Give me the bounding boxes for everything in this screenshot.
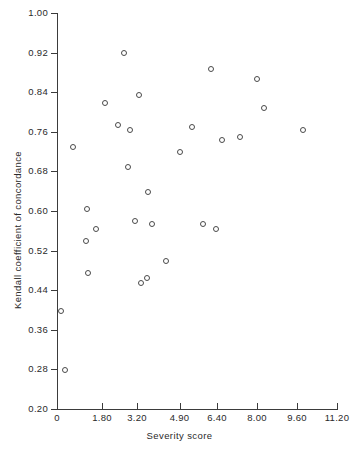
y-tick-label: 0.92 xyxy=(28,48,48,58)
x-tick xyxy=(102,403,103,410)
x-tick-label: 6.40 xyxy=(207,412,227,423)
x-tick-label: 11.20 xyxy=(325,412,350,423)
data-point xyxy=(115,122,121,128)
plot-data-area xyxy=(0,0,359,453)
y-tick-label: 0.20 xyxy=(28,404,48,414)
y-tick xyxy=(51,330,58,331)
data-point xyxy=(254,76,260,82)
data-point xyxy=(177,149,183,155)
x-tick xyxy=(137,403,138,410)
x-axis-title: Severity score xyxy=(0,430,359,441)
y-tick xyxy=(51,369,58,370)
x-tick-label: 1.80 xyxy=(92,412,112,423)
data-point xyxy=(163,258,169,264)
y-tick xyxy=(51,409,58,410)
y-tick xyxy=(51,251,58,252)
x-tick xyxy=(180,403,181,410)
x-axis-line xyxy=(57,409,338,410)
x-tick-label: 4.90 xyxy=(170,412,190,423)
data-point xyxy=(213,226,219,232)
y-tick-label: 0.84 xyxy=(28,87,48,97)
data-point xyxy=(85,270,91,276)
y-tick-label: 0.60 xyxy=(28,206,48,216)
data-point xyxy=(102,100,108,106)
data-point xyxy=(200,221,206,227)
x-tick-label: 0 xyxy=(54,412,60,423)
data-point xyxy=(84,206,90,212)
y-axis-title: Kendall coefficient of concordance xyxy=(12,130,23,330)
x-tick-label: 8.00 xyxy=(247,412,267,423)
data-point xyxy=(62,367,68,373)
data-point xyxy=(125,164,131,170)
x-tick xyxy=(257,403,258,410)
y-tick-label: 0.76 xyxy=(28,127,48,137)
data-point xyxy=(121,50,127,56)
y-tick xyxy=(51,132,58,133)
data-point xyxy=(127,127,133,133)
y-tick-label: 0.68 xyxy=(28,166,48,176)
y-tick xyxy=(51,53,58,54)
data-point xyxy=(58,308,64,314)
y-tick-label: 0.36 xyxy=(28,325,48,335)
x-tick xyxy=(297,403,298,410)
scatter-plot-figure: 0.200.280.360.440.520.600.680.760.840.92… xyxy=(0,0,359,453)
x-tick xyxy=(217,403,218,410)
x-tick-label: 9.60 xyxy=(287,412,307,423)
data-point xyxy=(70,144,76,150)
y-tick-label: 0.52 xyxy=(28,246,48,256)
data-point xyxy=(83,238,89,244)
data-point xyxy=(300,127,306,133)
y-tick-label: 0.44 xyxy=(28,285,48,295)
y-tick-label: 0.28 xyxy=(28,364,48,374)
y-tick xyxy=(51,171,58,172)
data-point xyxy=(93,226,99,232)
x-tick-label: 3.20 xyxy=(127,412,147,423)
data-point xyxy=(138,280,144,286)
data-point xyxy=(149,221,155,227)
data-point xyxy=(144,275,150,281)
data-point xyxy=(261,105,267,111)
y-tick xyxy=(51,290,58,291)
y-tick-label: 1.00 xyxy=(28,8,48,18)
y-tick xyxy=(51,92,58,93)
y-tick xyxy=(51,13,58,14)
data-point xyxy=(208,66,214,72)
y-tick xyxy=(51,211,58,212)
data-point xyxy=(189,124,195,130)
x-tick xyxy=(337,403,338,410)
data-point xyxy=(145,189,151,195)
data-point xyxy=(136,92,142,98)
data-point xyxy=(237,134,243,140)
data-point xyxy=(132,218,138,224)
data-point xyxy=(219,137,225,143)
